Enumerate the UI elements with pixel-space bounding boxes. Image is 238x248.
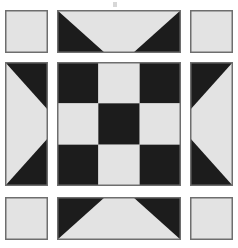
edge-block-bottom: [57, 197, 181, 240]
flying-geese-up-shape: [57, 197, 181, 240]
center-block-nine-patch: [57, 62, 181, 186]
plain-light-square-shape: [190, 197, 233, 240]
patch-r2c1: [98, 145, 139, 186]
light-square-fill: [190, 10, 233, 53]
flying-geese-right-shape: [5, 62, 48, 186]
patch-r1c2: [140, 103, 181, 144]
edge-block-left: [5, 62, 48, 186]
plain-light-square-shape: [190, 10, 233, 53]
patch-r0c2: [140, 62, 181, 103]
corner-block-bottom-left: [5, 197, 48, 240]
light-square-fill: [190, 197, 233, 240]
corner-block-top-left: [5, 10, 48, 53]
patch-r2c2: [140, 145, 181, 186]
corner-block-top-right: [190, 10, 233, 53]
patch-r2c0: [57, 145, 98, 186]
patch-r1c0: [57, 103, 98, 144]
patch-r1c1: [98, 103, 139, 144]
nine-patch-shape: [57, 62, 181, 186]
flying-geese-left-shape: [190, 62, 233, 186]
edge-block-right: [190, 62, 233, 186]
scan-smudge-artifact: [113, 2, 117, 7]
plain-light-square-shape: [5, 10, 48, 53]
plain-light-square-shape: [5, 197, 48, 240]
light-square-fill: [5, 197, 48, 240]
quilt-block-diagram: [0, 0, 238, 248]
flying-geese-down-shape: [57, 10, 181, 53]
edge-block-top: [57, 10, 181, 53]
light-square-fill: [5, 10, 48, 53]
corner-block-bottom-right: [190, 197, 233, 240]
patch-r0c1: [98, 62, 139, 103]
patch-r0c0: [57, 62, 98, 103]
